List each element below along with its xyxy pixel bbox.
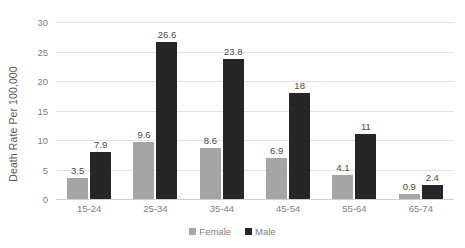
bar-group: 0.92.4 <box>388 22 454 199</box>
bar-value-label: 26.6 <box>158 29 177 40</box>
bar-male[interactable]: 18 <box>289 93 310 199</box>
bar-chart: Death Rate Per 100,000 051015202530 3.57… <box>0 0 465 248</box>
x-axis-ticks: 15-2425-3435-4445-5455-6465-74 <box>56 203 454 214</box>
bar-group: 3.57.9 <box>56 22 122 199</box>
bar-female[interactable]: 6.9 <box>266 158 287 199</box>
bar-female[interactable]: 9.6 <box>133 142 154 199</box>
y-tick-label: 0 <box>22 194 48 205</box>
y-tick-label: 10 <box>22 135 48 146</box>
bar-value-label: 6.9 <box>270 145 283 156</box>
legend-item-male[interactable]: Male <box>245 226 276 237</box>
bar-groups: 3.57.99.626.68.623.86.9184.1110.92.4 <box>56 22 454 199</box>
bar-value-label: 7.9 <box>94 139 107 150</box>
x-tick-label: 35-44 <box>189 203 255 214</box>
gridline <box>56 199 454 200</box>
x-tick-label: 65-74 <box>388 203 454 214</box>
y-tick-label: 15 <box>22 105 48 116</box>
bar-male[interactable]: 7.9 <box>90 152 111 199</box>
bar-value-label: 18 <box>294 80 305 91</box>
bar-female[interactable]: 0.9 <box>399 194 420 199</box>
x-tick-label: 45-54 <box>255 203 321 214</box>
bar-male[interactable]: 11 <box>355 134 376 199</box>
chart-legend: FemaleMale <box>0 226 465 237</box>
y-tick-label: 30 <box>22 17 48 28</box>
bar-group: 4.111 <box>321 22 387 199</box>
bar-value-label: 3.5 <box>71 165 84 176</box>
legend-label: Male <box>255 226 276 237</box>
x-tick-label: 55-64 <box>321 203 387 214</box>
bar-group: 6.918 <box>255 22 321 199</box>
bar-value-label: 4.1 <box>336 162 349 173</box>
bar-group: 8.623.8 <box>189 22 255 199</box>
bar-group: 9.626.6 <box>122 22 188 199</box>
bar-value-label: 23.8 <box>224 46 243 57</box>
legend-label: Female <box>199 226 231 237</box>
bar-value-label: 8.6 <box>204 135 217 146</box>
bar-female[interactable]: 3.5 <box>67 178 88 199</box>
bar-male[interactable]: 26.6 <box>156 42 177 199</box>
bar-male[interactable]: 2.4 <box>422 185 443 199</box>
bar-value-label: 2.4 <box>426 172 439 183</box>
bar-female[interactable]: 4.1 <box>332 175 353 199</box>
bar-value-label: 11 <box>361 121 371 132</box>
bar-female[interactable]: 8.6 <box>200 148 221 199</box>
y-tick-label: 20 <box>22 76 48 87</box>
legend-swatch-icon <box>189 228 196 235</box>
x-tick-label: 15-24 <box>56 203 122 214</box>
x-tick-label: 25-34 <box>122 203 188 214</box>
legend-swatch-icon <box>245 228 252 235</box>
legend-item-female[interactable]: Female <box>189 226 231 237</box>
bar-value-label: 9.6 <box>137 129 150 140</box>
bar-value-label: 0.9 <box>403 181 416 192</box>
bar-male[interactable]: 23.8 <box>223 59 244 199</box>
y-tick-label: 5 <box>22 164 48 175</box>
y-tick-label: 25 <box>22 46 48 57</box>
